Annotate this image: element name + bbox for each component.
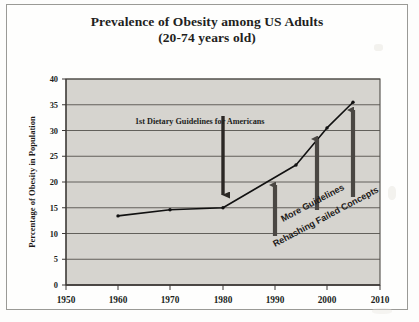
x-axis <box>66 285 380 290</box>
ytick-label: 20 <box>50 178 58 187</box>
ytick-label: 0 <box>54 281 58 290</box>
ytick-label: 30 <box>50 127 58 136</box>
xtick-label: 1970 <box>161 295 180 305</box>
scanned-chart-image: Prevalence of Obesity among US Adults (2… <box>0 0 419 322</box>
ytick-label: 5 <box>54 255 58 264</box>
ytick-label: 35 <box>50 101 58 110</box>
y-axis-title: Percentage of Obesity in Population <box>27 116 37 248</box>
ytick-label: 15 <box>50 204 58 213</box>
y-axis <box>62 79 66 285</box>
xtick-label: 1960 <box>109 295 128 305</box>
xtick-label: 1990 <box>266 295 285 305</box>
annotation-dietary-guidelines: 1st Dietary Guidelines for Americans <box>135 117 264 126</box>
xtick-label: 2010 <box>371 295 390 305</box>
xtick-label: 1950 <box>57 295 76 305</box>
ytick-label: 40 <box>50 75 58 84</box>
xtick-label: 2000 <box>318 295 337 305</box>
ytick-label: 25 <box>50 152 58 161</box>
xtick-label: 1980 <box>214 295 233 305</box>
chart-canvas: 40 35 30 25 20 15 10 5 0 1950 1960 1970 … <box>0 0 419 322</box>
ytick-label: 10 <box>50 230 58 239</box>
